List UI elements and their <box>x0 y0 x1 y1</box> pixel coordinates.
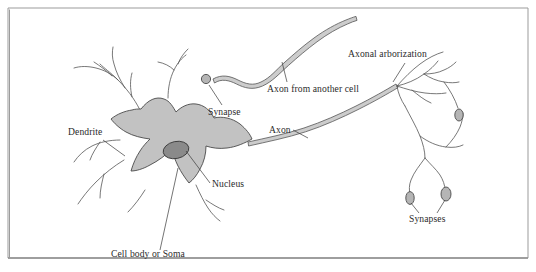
label-axon: Axon <box>269 124 291 135</box>
label-axon-from-another-cell: Axon from another cell <box>267 83 359 94</box>
label-synapses: Synapses <box>409 213 446 224</box>
label-axonal-arborization: Axonal arborization <box>348 48 427 59</box>
label-dendrite: Dendrite <box>68 126 102 137</box>
label-nucleus: Nucleus <box>212 178 244 189</box>
label-synapse: Synapse <box>208 106 241 117</box>
label-cell-body-or-soma: Cell body or Soma <box>111 248 186 259</box>
neuron-diagram-canvas: Dendrite Synapse Axon from another cell … <box>0 0 536 272</box>
synapse-bouton-incoming <box>201 74 210 83</box>
neuron-diagram-figure: Dendrite Synapse Axon from another cell … <box>0 0 536 272</box>
